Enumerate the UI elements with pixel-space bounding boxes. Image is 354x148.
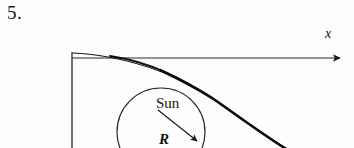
sun-label: Sun (156, 95, 179, 112)
trajectory-curve-base (73, 53, 288, 148)
trajectory-curve-thick (110, 56, 288, 148)
x-axis-label: x (325, 26, 331, 42)
figure-page: 5. x Sun R (0, 0, 354, 148)
radius-label: R (159, 131, 169, 148)
physics-figure-diagram (0, 0, 354, 148)
